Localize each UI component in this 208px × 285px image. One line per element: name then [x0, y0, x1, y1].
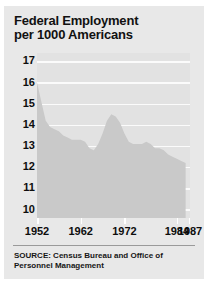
y-axis: 1716151413121110: [4, 53, 35, 218]
y-tick-label-15: 15: [4, 98, 35, 109]
divider: [13, 245, 195, 246]
y-tick-label-12: 12: [4, 161, 35, 172]
x-tick-1962: [81, 218, 83, 224]
x-tick-1952: [37, 218, 39, 224]
page-title: Federal Employment per 1000 Americans: [14, 14, 196, 42]
y-tick-label-11: 11: [4, 182, 35, 193]
x-tick-1987: [189, 218, 191, 224]
chart-plot-area: [37, 53, 190, 218]
area-chart-svg: [37, 53, 190, 218]
y-tick-label-13: 13: [4, 140, 35, 151]
y-tick-label-14: 14: [4, 119, 35, 130]
x-tick-1984: [177, 218, 179, 224]
x-axis: 19521962197219841987: [4, 225, 204, 239]
x-tick-label-1952: 1952: [25, 225, 49, 237]
title-line-2: per 1000 Americans: [14, 28, 196, 42]
y-tick-label-10: 10: [4, 204, 35, 215]
y-tick-label-17: 17: [4, 55, 35, 66]
x-tick-1972: [124, 218, 126, 224]
x-axis-ticks: [37, 218, 190, 224]
source-line-2: Personnel Management: [14, 261, 198, 271]
source-note: SOURCE: Census Bureau and Office of Pers…: [14, 251, 198, 270]
area-series-federal-employment: [37, 83, 186, 218]
y-tick-label-16: 16: [4, 77, 35, 88]
x-tick-label-1962: 1962: [68, 225, 92, 237]
chart-card: Federal Employment per 1000 Americans 17…: [4, 6, 204, 279]
x-tick-label-1987: 1987: [178, 225, 202, 237]
x-tick-label-1972: 1972: [112, 225, 136, 237]
source-line-1: SOURCE: Census Bureau and Office of: [14, 251, 198, 261]
title-line-1: Federal Employment: [14, 14, 196, 28]
